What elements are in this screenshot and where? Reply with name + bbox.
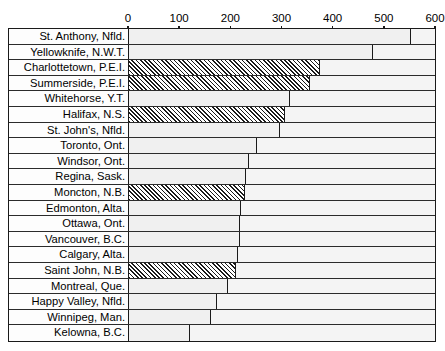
category-label: Halifax, N.S. bbox=[9, 107, 129, 122]
category-label: Regina, Sask. bbox=[9, 169, 129, 184]
chart-row: Whitehorse, Y.T. bbox=[9, 91, 435, 107]
chart-row: Vancouver, B.C. bbox=[9, 232, 435, 248]
bar-highlighted bbox=[129, 60, 320, 75]
category-label: Edmonton, Alta. bbox=[9, 201, 129, 216]
bar-track bbox=[129, 123, 435, 138]
chart-row: Toronto, Ont. bbox=[9, 138, 435, 154]
chart-row: Summerside, P.E.I. bbox=[9, 76, 435, 92]
bar-track bbox=[129, 325, 435, 341]
chart-row: Yellowknife, N.W.T. bbox=[9, 45, 435, 61]
x-axis: 0100200300400500600 bbox=[0, 0, 444, 29]
chart-row: Calgary, Alta. bbox=[9, 247, 435, 263]
bar-highlighted bbox=[129, 107, 285, 122]
chart-row: Happy Valley, Nfld. bbox=[9, 294, 435, 310]
x-axis-tick-label: 100 bbox=[170, 12, 189, 24]
category-label: St. Anthony, Nfld. bbox=[9, 29, 129, 44]
bar bbox=[129, 279, 228, 294]
bar-track bbox=[129, 60, 435, 75]
category-label: Vancouver, B.C. bbox=[9, 232, 129, 247]
chart-row: Kelowna, B.C. bbox=[9, 325, 435, 341]
bar-track bbox=[129, 185, 435, 200]
category-label: Charlottetown, P.E.I. bbox=[9, 60, 129, 75]
category-label: Montreal, Que. bbox=[9, 279, 129, 294]
category-label: Yellowknife, N.W.T. bbox=[9, 45, 129, 60]
chart-plot-grid: St. Anthony, Nfld.Yellowknife, N.W.T.Cha… bbox=[8, 28, 436, 342]
bar bbox=[129, 169, 246, 184]
chart-row: Regina, Sask. bbox=[9, 169, 435, 185]
chart-row: Saint John, N.B. bbox=[9, 263, 435, 279]
x-axis-tick-label: 0 bbox=[125, 12, 131, 24]
category-label: Moncton, N.B. bbox=[9, 185, 129, 200]
chart-row: St. Anthony, Nfld. bbox=[9, 29, 435, 45]
bar-track bbox=[129, 169, 435, 184]
category-label: Whitehorse, Y.T. bbox=[9, 91, 129, 106]
x-axis-tick-label: 200 bbox=[221, 12, 240, 24]
bar-track bbox=[129, 232, 435, 247]
bar bbox=[129, 201, 241, 216]
bar bbox=[129, 232, 240, 247]
bar bbox=[129, 154, 249, 169]
bar bbox=[129, 45, 373, 60]
category-label: St. John's, Nfld. bbox=[9, 123, 129, 138]
bar-track bbox=[129, 91, 435, 106]
chart-row: Ottawa, Ont. bbox=[9, 216, 435, 232]
bar-track bbox=[129, 247, 435, 262]
x-axis-tick-label: 400 bbox=[323, 12, 342, 24]
bar bbox=[129, 294, 217, 309]
x-axis-tick-label: 600 bbox=[425, 12, 444, 24]
x-axis-tick-label: 300 bbox=[272, 12, 291, 24]
bar-track bbox=[129, 263, 435, 278]
bar-highlighted bbox=[129, 76, 310, 91]
bar bbox=[129, 216, 240, 231]
chart-row: Winnipeg, Man. bbox=[9, 310, 435, 326]
bar-highlighted bbox=[129, 185, 245, 200]
bar-highlighted bbox=[129, 263, 236, 278]
category-label: Happy Valley, Nfld. bbox=[9, 294, 129, 309]
bar bbox=[129, 247, 238, 262]
chart-row: Windsor, Ont. bbox=[9, 154, 435, 170]
category-label: Saint John, N.B. bbox=[9, 263, 129, 278]
category-label: Ottawa, Ont. bbox=[9, 216, 129, 231]
bar-track bbox=[129, 76, 435, 91]
bar-track bbox=[129, 107, 435, 122]
bar-track bbox=[129, 310, 435, 325]
category-label: Windsor, Ont. bbox=[9, 154, 129, 169]
bar bbox=[129, 123, 280, 138]
category-label: Kelowna, B.C. bbox=[9, 325, 129, 341]
bar bbox=[129, 310, 211, 325]
chart-row: Halifax, N.S. bbox=[9, 107, 435, 123]
category-label: Toronto, Ont. bbox=[9, 138, 129, 153]
bar-track bbox=[129, 138, 435, 153]
chart-row: St. John's, Nfld. bbox=[9, 123, 435, 139]
chart-row: Charlottetown, P.E.I. bbox=[9, 60, 435, 76]
bar-track bbox=[129, 294, 435, 309]
bar-track bbox=[129, 216, 435, 231]
bar bbox=[129, 29, 411, 44]
category-label: Summerside, P.E.I. bbox=[9, 76, 129, 91]
bar-track bbox=[129, 45, 435, 60]
bar-track bbox=[129, 201, 435, 216]
chart-row: Montreal, Que. bbox=[9, 279, 435, 295]
bar bbox=[129, 91, 290, 106]
category-label: Winnipeg, Man. bbox=[9, 310, 129, 325]
bar-track bbox=[129, 279, 435, 294]
bar-track bbox=[129, 29, 435, 44]
bar bbox=[129, 325, 190, 341]
x-axis-tick-label: 500 bbox=[374, 12, 393, 24]
bar-track bbox=[129, 154, 435, 169]
bar bbox=[129, 138, 257, 153]
chart-row: Edmonton, Alta. bbox=[9, 201, 435, 217]
category-label: Calgary, Alta. bbox=[9, 247, 129, 262]
chart-row: Moncton, N.B. bbox=[9, 185, 435, 201]
